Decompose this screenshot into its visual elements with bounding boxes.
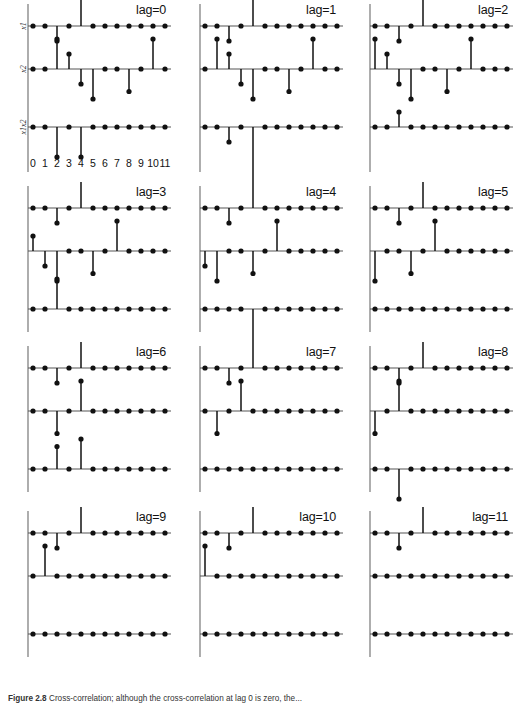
data-point <box>150 631 155 636</box>
data-point <box>432 218 437 223</box>
data-point <box>78 248 83 253</box>
data-point <box>468 306 473 311</box>
data-point <box>408 530 413 535</box>
x-tick-label: 4 <box>78 157 84 169</box>
lag-label: lag=9 <box>136 510 166 524</box>
data-point <box>504 23 509 28</box>
x-tick-label: 11 <box>160 157 171 169</box>
data-point <box>480 23 485 28</box>
data-point <box>138 573 143 578</box>
data-point <box>384 631 389 636</box>
data-point <box>262 466 267 471</box>
data-point <box>150 205 155 210</box>
data-point <box>66 631 71 636</box>
data-point <box>102 248 107 253</box>
data-point <box>322 124 327 129</box>
x-tick-label: 9 <box>138 157 144 169</box>
data-point <box>408 205 413 210</box>
data-point <box>162 530 167 535</box>
lag-label: lag=0 <box>136 3 166 17</box>
data-point <box>384 205 389 210</box>
data-point <box>298 530 303 535</box>
data-point <box>262 408 267 413</box>
data-point <box>310 124 315 129</box>
data-point <box>396 248 401 253</box>
data-point <box>162 66 167 71</box>
data-point <box>456 365 461 370</box>
data-point <box>150 23 155 28</box>
data-point <box>396 496 401 501</box>
data-point <box>274 124 279 129</box>
data-point <box>432 530 437 535</box>
data-point <box>102 66 107 71</box>
data-point <box>102 408 107 413</box>
data-point <box>468 248 473 253</box>
data-point <box>42 124 47 129</box>
data-point <box>504 365 509 370</box>
data-point <box>310 466 315 471</box>
data-point <box>202 124 207 129</box>
data-point <box>102 573 107 578</box>
data-point <box>102 124 107 129</box>
data-point <box>334 306 339 311</box>
data-point <box>102 205 107 210</box>
data-point <box>372 124 377 129</box>
data-point <box>408 96 413 101</box>
data-point <box>334 124 339 129</box>
data-point <box>504 66 509 71</box>
data-point <box>298 573 303 578</box>
lag-label: lag=6 <box>136 345 166 359</box>
data-point <box>286 573 291 578</box>
data-point <box>334 408 339 413</box>
lag-label: lag=3 <box>136 185 166 199</box>
data-point <box>214 466 219 471</box>
data-point <box>468 466 473 471</box>
data-point <box>202 466 207 471</box>
data-point <box>286 408 291 413</box>
lag-label: lag=2 <box>478 3 508 17</box>
data-point <box>126 530 131 535</box>
data-point <box>334 573 339 578</box>
data-point <box>126 573 131 578</box>
lag-panel: lag=4 <box>172 182 342 342</box>
lag-panel: lag=11 <box>342 507 514 667</box>
lag-panel: lag=5 <box>342 182 514 342</box>
data-point <box>226 408 231 413</box>
data-point <box>226 573 231 578</box>
lag-label: lag=8 <box>478 345 508 359</box>
data-point <box>150 466 155 471</box>
data-point <box>298 466 303 471</box>
data-point <box>504 205 509 210</box>
data-point <box>150 408 155 413</box>
data-point <box>480 466 485 471</box>
data-point <box>322 205 327 210</box>
data-point <box>372 23 377 28</box>
data-point <box>114 631 119 636</box>
stem-plot: x1x2x1x201234567891011 <box>0 0 172 182</box>
data-point <box>238 248 243 253</box>
data-point <box>102 365 107 370</box>
x-tick-label: 2 <box>54 157 60 169</box>
data-point <box>286 631 291 636</box>
data-point <box>30 408 35 413</box>
data-point <box>54 631 59 636</box>
data-point <box>274 23 279 28</box>
data-point <box>468 23 473 28</box>
data-point <box>384 365 389 370</box>
data-point <box>492 573 497 578</box>
stem-plot <box>342 507 514 667</box>
data-point <box>396 220 401 225</box>
data-point <box>78 436 83 441</box>
lag-panel: lag=7 <box>172 342 342 507</box>
data-point <box>114 205 119 210</box>
axis-series-label: x1 <box>19 22 28 31</box>
data-point <box>310 248 315 253</box>
data-point <box>274 466 279 471</box>
axis-series-label: x2 <box>19 65 28 74</box>
lag-label: lag=4 <box>306 185 336 199</box>
data-point <box>444 205 449 210</box>
data-point <box>126 466 131 471</box>
stem-plot <box>172 342 344 502</box>
data-point <box>42 66 47 71</box>
data-point <box>114 408 119 413</box>
